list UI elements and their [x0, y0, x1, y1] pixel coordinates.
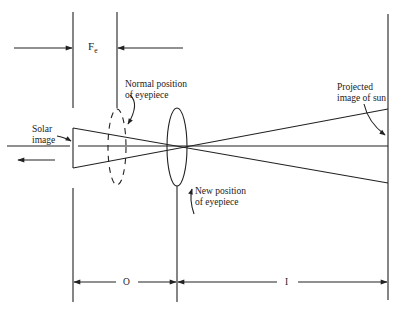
normal-position-label: Normal position of eyepiece: [125, 79, 187, 101]
projected-image-label-line1: Projected: [337, 82, 386, 93]
solar-image-label: Solar image: [32, 124, 55, 146]
solar-image-label-line2: image: [32, 135, 55, 146]
projected-image-label-line2: image of sun: [337, 93, 386, 104]
projected-image-label: Projected image of sun: [337, 82, 386, 104]
diagram-canvas: Fe Normal position of eyepiece Solar ima…: [0, 0, 397, 309]
new-position-label-line2: of eyepiece: [195, 197, 246, 208]
image-distance-label: I: [285, 277, 288, 288]
ray-bottom: [73, 109, 388, 168]
focal-length-label: Fe: [88, 41, 97, 56]
new-position-callout-arrow: [191, 189, 194, 214]
optics-diagram: [0, 0, 397, 309]
normal-position-label-line1: Normal position: [125, 79, 187, 90]
eyepiece-normal-position: [108, 109, 126, 185]
solar-image-callout-arrow: [57, 136, 71, 141]
new-position-label: New position of eyepiece: [195, 186, 246, 208]
ray-top: [73, 128, 388, 183]
solar-image-label-line1: Solar: [32, 124, 55, 135]
new-position-label-line1: New position: [195, 186, 246, 197]
normal-position-label-line2: of eyepiece: [125, 90, 187, 101]
projected-image-callout-arrow: [364, 104, 385, 135]
object-distance-label: O: [123, 277, 130, 288]
